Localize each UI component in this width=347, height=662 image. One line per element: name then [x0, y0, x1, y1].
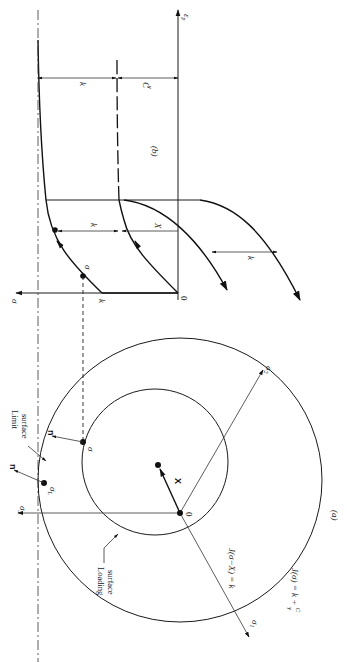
unloading-curve-inner [124, 200, 227, 290]
loading-surface-label-2: surface [106, 570, 116, 595]
sigma1-axis [180, 513, 249, 637]
dim-X-label: X [153, 222, 163, 229]
limit-surface-label-2: surface [20, 414, 30, 439]
limit-surface-label-1: Limit [10, 410, 20, 430]
panel-b-origin-label: 0 [179, 296, 189, 301]
panel-a: σ3 σ2 σ1 0 X σ n σL n Limit surf [8, 338, 340, 637]
normal-vector-2 [14, 470, 44, 483]
sigma3-label: σ3 [17, 506, 28, 513]
loading-surface-leader [104, 534, 118, 563]
loading-surface-label-1: Loading [96, 567, 106, 596]
dim-k-top-label: k [78, 82, 88, 87]
stress-point-b-label: σ [83, 265, 93, 270]
limit-surface-equation: J(σ) = k + Cγ [286, 568, 302, 613]
dim-k-unload-label: k [246, 256, 256, 261]
limit-point-label: σL [47, 487, 58, 495]
panel-a-caption: (a) [330, 510, 340, 521]
yield-k-label: k [97, 299, 107, 304]
kinematic-hardening-figure: εp σ 0 k σ k X k [0, 0, 347, 662]
unloading-curve-outer [200, 200, 300, 300]
loading-surface-center [155, 462, 161, 468]
loading-surface-equation: J(σ−X) = k [227, 548, 237, 590]
limit-surface-leader [28, 446, 46, 461]
normal-label-1: n [46, 430, 56, 436]
dim-C-gamma-label: Cγ [141, 82, 154, 89]
sigma1-label: σ1 [249, 620, 260, 627]
panel-a-origin-label: 0 [184, 512, 194, 517]
back-stress-label: X [173, 478, 183, 484]
panel-b-caption: (b) [150, 146, 160, 157]
stress-point-a-label: σ [86, 447, 96, 452]
back-stress-curve [119, 200, 178, 293]
back-stress-vector [160, 469, 180, 513]
normal-label-2: n [8, 464, 18, 470]
panel-b: εp σ 0 k σ k X k [10, 10, 300, 662]
stress-point-b2 [52, 227, 58, 233]
epsilon-p-axis-label: εp [181, 14, 192, 21]
back-stress-asymptote [117, 60, 119, 200]
sigma-axis-label: σ [10, 299, 20, 304]
dim-k-1-label: k [89, 223, 99, 228]
normal-vector-1 [52, 436, 83, 442]
